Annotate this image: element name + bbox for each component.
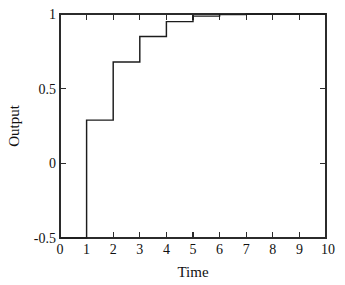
y-tick-labels: -0.5 0 0.5 1 [34,7,56,246]
x-tick-label: 5 [190,242,197,257]
y-tick-label: 0 [49,156,56,171]
y-tick-label: -0.5 [34,231,56,246]
x-tick-label: 10 [321,242,335,257]
y-tick-label: 1 [49,7,56,22]
x-tick-labels: 0 1 2 3 4 5 6 7 8 9 10 [57,242,336,257]
y-axis-title: Output [6,104,22,147]
output-step-curve [60,14,326,238]
y-axis-ticks [60,14,326,238]
chart-figure: 0 1 2 3 4 5 6 7 8 9 10 -0.5 0 0.5 1 Time… [0,0,345,285]
x-axis-ticks [60,14,326,238]
x-tick-label: 8 [269,242,276,257]
x-tick-label: 2 [110,242,117,257]
x-tick-label: 0 [57,242,64,257]
y-tick-label: 0.5 [39,82,57,97]
x-axis-title: Time [177,264,208,280]
x-tick-label: 4 [163,242,170,257]
x-tick-label: 6 [216,242,223,257]
x-tick-label: 9 [296,242,303,257]
step-response-plot: 0 1 2 3 4 5 6 7 8 9 10 -0.5 0 0.5 1 Time… [0,0,345,285]
x-tick-label: 3 [136,242,143,257]
plot-frame [60,14,326,238]
x-tick-label: 1 [83,242,90,257]
x-tick-label: 7 [243,242,250,257]
